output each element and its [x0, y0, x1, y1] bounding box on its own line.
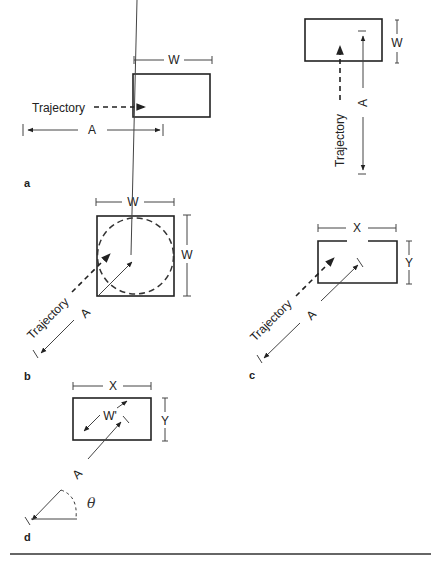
y-dimension: Y — [405, 241, 413, 284]
panel-c: X Y Trajectory A c — [247, 221, 413, 381]
trajectory-label: Trajectory — [247, 297, 294, 344]
width-label-top: W — [127, 195, 139, 209]
circular-target — [98, 218, 174, 294]
panel-d: X Y W' A θ d — [24, 379, 169, 543]
panel-label-c: c — [249, 369, 255, 381]
trajectory-label: Trajectory — [32, 101, 85, 115]
target-square — [97, 216, 174, 296]
trajectory-label: Trajectory — [333, 114, 347, 167]
angle-indicator: θ — [31, 490, 96, 519]
x-dimension: X — [73, 379, 151, 393]
effective-width-dimension: W' — [84, 401, 127, 431]
width-label: W — [168, 53, 180, 67]
width-dimension: W — [134, 53, 212, 67]
width-label-side: W — [181, 248, 193, 262]
x-dimension: X — [318, 221, 396, 235]
angle-label: θ — [87, 495, 96, 511]
panel-a-vertical: W Trajectory A — [305, 19, 403, 174]
panel-a: W Trajectory A a — [23, 53, 212, 189]
y-label: Y — [161, 414, 169, 428]
trajectory-arrow — [72, 254, 110, 292]
target-box — [305, 19, 382, 61]
amplitude-dimension: A — [25, 416, 129, 525]
x-label: X — [353, 221, 361, 235]
panel-label-d: d — [24, 531, 31, 543]
amplitude-dimension: A — [33, 0, 137, 358]
width-dimension-top: W — [96, 195, 174, 209]
width-dimension: W — [391, 20, 403, 63]
target-box — [133, 74, 210, 117]
amplitude-label: A — [77, 305, 93, 321]
width-label: W — [391, 36, 403, 50]
amplitude-label: A — [303, 307, 319, 323]
panel-label-b: b — [24, 370, 31, 382]
width-dimension-side: W — [181, 215, 193, 296]
y-label: Y — [405, 256, 413, 270]
amplitude-dimension: A — [23, 123, 163, 137]
y-dimension: Y — [161, 398, 169, 441]
amplitude-dimension: A — [356, 31, 370, 174]
x-label: X — [109, 379, 117, 393]
effective-width-label: W' — [103, 409, 117, 423]
amplitude-label: A — [88, 123, 96, 137]
amplitude-label: A — [69, 466, 85, 482]
amplitude-label: A — [356, 99, 370, 107]
panel-label-a: a — [24, 177, 31, 189]
trajectory-arrow — [296, 258, 334, 296]
target-diagram-figure: W Trajectory A a W Trajectory — [0, 0, 434, 562]
trajectory-label: Trajectory — [24, 295, 71, 342]
